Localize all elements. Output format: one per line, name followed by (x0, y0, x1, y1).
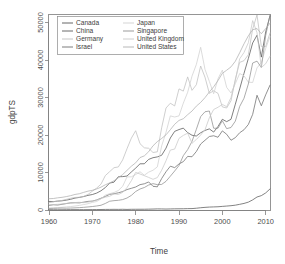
x-tick-label: 1980 (127, 217, 143, 226)
y-tick-label: 20000 (36, 125, 45, 146)
x-tick-label: 1960 (41, 217, 57, 226)
x-tick-label: 1990 (171, 217, 187, 226)
legend-label-germany: Germany (76, 35, 104, 43)
legend-label-united-kingdom: United Kingdom (137, 35, 184, 43)
y-tick-label: 10000 (36, 162, 45, 183)
legend-label-israel: Israel (76, 43, 93, 50)
gdp-time-series-chart: 01000020000300004000050000 1960197019801… (0, 0, 285, 264)
legend-label-japan: Japan (137, 19, 155, 27)
legend-label-china: China (76, 27, 94, 34)
legend-label-singapore: Singapore (137, 27, 167, 35)
legend: CanadaJapanChinaSingaporeGermanyUnited K… (58, 17, 185, 55)
chart-container: 01000020000300004000050000 1960197019801… (0, 0, 285, 264)
y-tick-label: 0 (36, 208, 45, 212)
legend-label-united-states: United States (137, 43, 177, 50)
y-tick-label: 50000 (36, 12, 45, 33)
x-axis-title: Time (150, 247, 168, 256)
x-tick-label: 2010 (257, 217, 273, 226)
y-tick-label: 40000 (36, 50, 45, 71)
x-tick-label: 1970 (84, 217, 100, 226)
y-axis-title: gdpTS (8, 99, 17, 124)
x-tick-label: 2000 (214, 217, 230, 226)
legend-label-canada: Canada (76, 19, 99, 26)
y-tick-label: 30000 (36, 87, 45, 108)
